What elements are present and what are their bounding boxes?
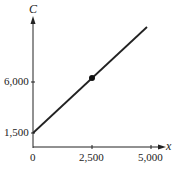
y-axis-label: C: [29, 2, 37, 17]
x-axis-label: x: [166, 139, 171, 154]
data-point: [89, 75, 95, 81]
y-tick-label-1500: 1,500: [4, 126, 29, 138]
y-tick-label-6000: 6,000: [4, 75, 29, 87]
y-axis-arrow-icon: [31, 16, 36, 24]
x-tick-label-2500: 2,500: [79, 151, 104, 163]
x-axis-arrow-icon: [158, 145, 166, 150]
x-tick-label-5000: 5,000: [138, 151, 163, 163]
x-tick-label-0: 0: [30, 151, 36, 163]
